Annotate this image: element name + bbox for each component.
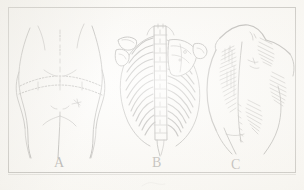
panel-a-spine-landmarks [59,30,61,82]
panel-a-illustration [8,20,118,160]
panel-b-illustration [110,22,210,157]
panel-label-b: B [152,155,162,171]
figure-plate: A B C [0,0,304,190]
panel-b-vertebral-column [154,26,167,156]
panel-label-a: A [54,155,65,171]
panel-b-scapula [168,39,197,76]
panel-label-c: C [231,157,241,173]
dashed-incision-icon [19,70,102,107]
hatch-shading-icon [220,38,286,142]
panel-c-illustration [198,16,298,156]
scan-smudge [140,181,166,188]
